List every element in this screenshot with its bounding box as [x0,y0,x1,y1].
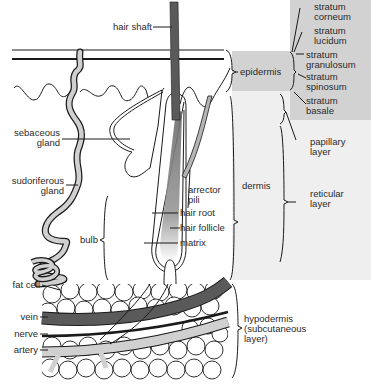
sudoriferous-gland-coil [32,260,57,279]
sebaceous-gland [110,90,163,177]
shaded-regions [232,0,371,280]
label-vein: vein [0,312,38,322]
label-hair-root: hair root [180,208,215,218]
label-hair-shaft: hair shaft [108,22,152,32]
label-dermis: dermis [242,181,271,191]
label-bulb: bulb [78,235,98,245]
label-reticular-layer: reticular layer [310,189,344,209]
hair-shaft [170,2,180,120]
label-sudoriferous-gland: sudoriferous gland [0,176,64,196]
label-matrix: matrix [180,238,206,248]
label-sebaceous-gland: sebaceous gland [2,128,60,148]
label-stratum-corneum: stratum corneum [314,2,351,22]
label-artery: artery [0,345,38,355]
label-hair-follicle: hair follicle [180,223,225,233]
label-stratum-lucidum: stratum lucidum [314,26,347,46]
label-papillary-layer: papillary layer [310,137,345,157]
label-nerve: nerve [0,329,38,339]
label-epidermis: epidermis [240,67,281,77]
label-arrector-pili: arrector pili [188,185,221,205]
label-hypodermis: hypodermis (subcutaneous layer) [244,314,306,344]
label-stratum-spinosum: stratum spinosum [306,72,347,92]
label-fat-cell: fat cell [0,280,40,290]
epidermis-surface [12,50,224,59]
label-stratum-basale: stratum basale [306,96,338,116]
label-stratum-granulosum: stratum granulosum [306,50,356,70]
